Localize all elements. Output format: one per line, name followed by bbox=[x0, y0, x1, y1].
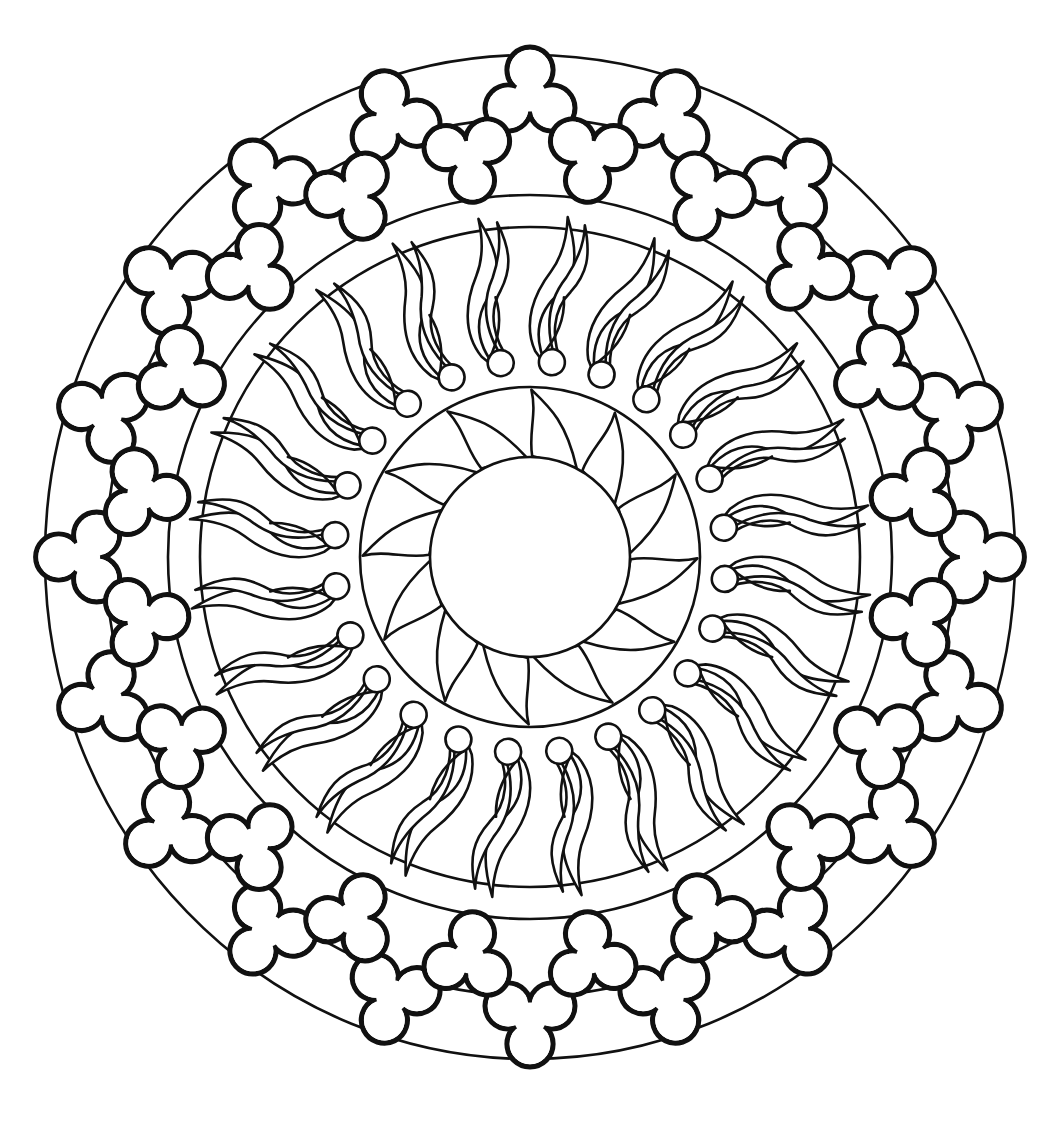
mandala-drawing bbox=[0, 0, 1061, 1129]
center-circle bbox=[430, 457, 630, 657]
center-disc bbox=[430, 457, 630, 657]
